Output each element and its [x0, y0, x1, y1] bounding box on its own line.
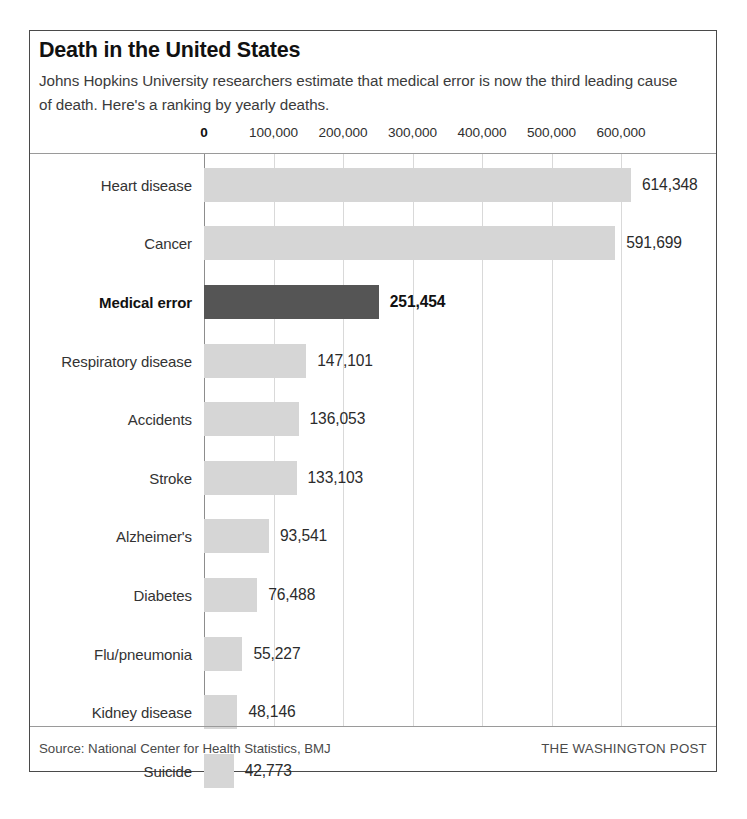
bar-row[interactable]: Flu/pneumonia55,227 — [30, 624, 716, 683]
bar-value-label: 55,227 — [253, 645, 300, 663]
bar-value-label: 133,103 — [308, 469, 364, 487]
bar-category-label: Heart disease — [30, 176, 192, 193]
x-tick-label: 300,000 — [388, 124, 437, 142]
subtitle: Johns Hopkins University researchers est… — [39, 69, 687, 117]
bar-row[interactable]: Diabetes76,488 — [30, 566, 716, 625]
bar-row[interactable]: Medical error251,454 — [30, 273, 716, 332]
x-tick-label: 400,000 — [457, 124, 506, 142]
infographic-card: Death in the United States Johns Hopkins… — [29, 30, 717, 772]
bar-value-label: 76,488 — [268, 586, 315, 604]
bar[interactable] — [204, 402, 299, 436]
bar-category-label: Medical error — [30, 293, 192, 310]
bar-category-label: Alzheimer's — [30, 528, 192, 545]
bar-category-label: Diabetes — [30, 586, 192, 603]
bar-value-label: 42,773 — [245, 762, 292, 780]
bar-row[interactable]: Kidney disease48,146 — [30, 683, 716, 742]
bar-category-label: Kidney disease — [30, 704, 192, 721]
plot-area: Heart disease614,348Cancer591,699Medical… — [30, 154, 716, 726]
bar-row[interactable]: Stroke133,103 — [30, 449, 716, 508]
bar[interactable] — [204, 695, 237, 729]
bar-value-label: 591,699 — [626, 234, 682, 252]
bar[interactable] — [204, 226, 615, 260]
x-tick-label: 100,000 — [249, 124, 298, 142]
bar-value-label: 48,146 — [248, 703, 295, 721]
bar-row[interactable]: Accidents136,053 — [30, 390, 716, 449]
publisher-brand: THE WASHINGTON POST — [541, 741, 707, 756]
bar-value-label: 93,541 — [280, 527, 327, 545]
bar-category-label: Stroke — [30, 469, 192, 486]
bar-highlighted[interactable] — [204, 285, 379, 319]
bar-value-label: 136,053 — [310, 410, 366, 428]
bar-row[interactable]: Heart disease614,348 — [30, 156, 716, 215]
bar-value-label: 614,348 — [642, 176, 698, 194]
bar-category-label: Respiratory disease — [30, 352, 192, 369]
x-axis-tick-labels: 0100,000200,000300,000400,000500,000600,… — [30, 124, 716, 154]
bar-category-label: Flu/pneumonia — [30, 645, 192, 662]
bar[interactable] — [204, 344, 306, 378]
bar-category-label: Cancer — [30, 235, 192, 252]
bar-value-label: 147,101 — [317, 352, 373, 370]
bar-row[interactable]: Alzheimer's93,541 — [30, 507, 716, 566]
page-title: Death in the United States — [39, 37, 708, 63]
bar[interactable] — [204, 578, 257, 612]
bar-category-label: Accidents — [30, 411, 192, 428]
footer-rule — [30, 726, 716, 727]
x-tick-label: 200,000 — [318, 124, 367, 142]
bar[interactable] — [204, 637, 242, 671]
bar-rows: Heart disease614,348Cancer591,699Medical… — [30, 154, 716, 726]
x-tick-label: 500,000 — [527, 124, 576, 142]
footer: Source: National Center for Health Stati… — [39, 735, 707, 761]
bar[interactable] — [204, 461, 297, 495]
x-tick-label: 0 — [200, 124, 208, 142]
bar-row[interactable]: Cancer591,699 — [30, 214, 716, 273]
bar-category-label: Suicide — [30, 762, 192, 779]
header: Death in the United States Johns Hopkins… — [39, 37, 708, 117]
source-credit: Source: National Center for Health Stati… — [39, 741, 331, 756]
bar-value-label: 251,454 — [390, 293, 446, 311]
bar[interactable] — [204, 519, 269, 553]
bar-row[interactable]: Respiratory disease147,101 — [30, 331, 716, 390]
x-tick-label: 600,000 — [596, 124, 645, 142]
bar[interactable] — [204, 168, 631, 202]
